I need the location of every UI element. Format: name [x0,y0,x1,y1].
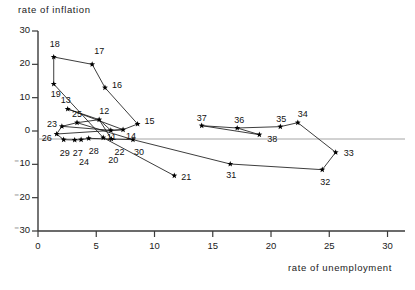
data-point-label: 32 [320,177,330,187]
data-point-label: 27 [73,148,83,158]
data-point-marker[interactable] [171,173,177,179]
series-segment [298,123,336,153]
data-point-label: 30 [134,147,144,157]
y-tick-label: 10 [2,91,30,102]
inflation-unemployment-scatter-chart: rate of inflation rate of unemployment 3… [0,0,415,290]
data-point-label: 11 [107,132,116,142]
data-point-label: 16 [112,80,122,90]
data-point-marker[interactable] [59,123,65,129]
data-point-label: 25 [72,109,82,119]
y-axis-ticks [32,31,38,231]
data-point-marker[interactable] [234,125,240,131]
data-point-label: 38 [267,134,277,144]
data-point-label: 24 [79,157,89,167]
data-point-marker[interactable] [74,120,80,126]
data-point-marker[interactable] [86,135,92,141]
x-tick-label: 25 [314,240,344,251]
y-tick-label: ⁻10 [2,157,30,168]
y-tick-label: 20 [2,57,30,68]
series-segment [92,64,105,87]
data-point-label: 37 [197,113,207,123]
data-point-marker[interactable] [89,61,95,67]
data-point-label: 23 [47,119,57,129]
data-point-label: 21 [181,172,191,182]
y-tick-label: 0 [2,124,30,135]
series-segment [237,127,280,128]
y-tick-label: 30 [2,24,30,35]
series-segment [322,152,335,169]
x-axis-ticks [38,231,388,237]
series-segment [77,120,99,123]
x-tick-label: 10 [140,240,170,251]
data-point-label: 22 [114,147,124,157]
data-point-label: 18 [50,39,60,49]
data-point-marker[interactable] [61,137,67,143]
data-point-label: 13 [61,95,71,105]
data-point-label: 15 [145,116,155,126]
data-point-marker[interactable] [78,137,84,143]
data-point-label: 33 [344,148,354,158]
series-connecting-lines [54,57,336,176]
data-point-marker[interactable] [277,124,283,130]
x-tick-label: 0 [23,240,53,251]
series-segment [133,140,230,164]
series-data-markers [51,54,339,178]
x-tick-label: 20 [256,240,286,251]
data-point-label: 19 [51,89,61,99]
data-point-label: 34 [298,109,308,119]
data-point-label: 26 [42,133,52,143]
x-tick-label: 30 [373,240,403,251]
data-point-marker[interactable] [256,132,262,138]
y-tick-label: ⁻30 [2,224,30,235]
data-point-marker[interactable] [333,149,339,155]
x-tick-label: 15 [198,240,228,251]
data-point-label: 29 [60,148,70,158]
axis-lines [38,31,405,231]
data-point-marker[interactable] [65,106,71,112]
data-point-label: 31 [226,170,236,180]
series-segment [105,88,138,124]
data-point-label: 17 [94,46,104,56]
series-segment [202,126,260,135]
series-segment [54,57,92,64]
data-point-label: 28 [89,146,99,156]
data-point-label: 35 [276,114,286,124]
x-tick-label: 5 [81,240,111,251]
data-point-marker[interactable] [199,123,205,129]
y-tick-label: ⁻20 [2,191,30,202]
data-point-label: 36 [234,115,244,125]
data-point-label: 12 [99,106,109,116]
data-point-marker[interactable] [227,161,233,167]
data-point-label: 14 [126,131,136,141]
data-point-marker[interactable] [72,137,78,143]
series-segment [230,164,322,170]
